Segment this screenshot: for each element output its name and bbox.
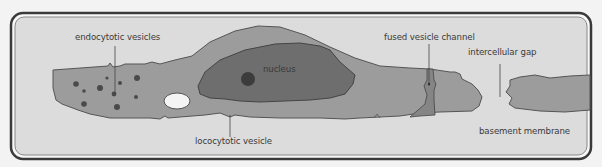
adjacent-cell [506, 75, 590, 112]
label-nucleus: nucleus [263, 64, 296, 74]
label-basement-membrane: basement membrane [479, 126, 570, 136]
label-lococytotic-vesicle: lococytotic vesicle [195, 136, 272, 146]
nucleolus [241, 72, 255, 86]
lococytotic-vesicle [164, 93, 190, 109]
label-endocytotic-vesicles: endocytotic vesicles [75, 32, 160, 42]
label-fused-vesicle-channel: fused vesicle channel [384, 32, 475, 42]
cell-diagram-graphic [0, 0, 602, 167]
label-intercellular-gap: intercellular gap [468, 47, 536, 57]
